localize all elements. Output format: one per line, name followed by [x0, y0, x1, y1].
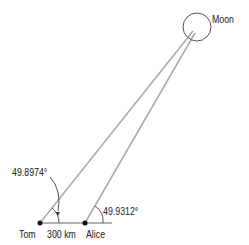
alice-label: Alice — [86, 230, 105, 240]
tom-sight-line — [40, 31, 193, 223]
alice-angle-label: 49.9312° — [103, 207, 138, 217]
baseline-distance-label: 300 km — [47, 230, 76, 240]
moon-circle — [183, 13, 211, 41]
tom-angle-label: 49.8974° — [12, 168, 47, 178]
tom-label: Tom — [19, 230, 36, 240]
alice-sight-line — [85, 33, 195, 223]
alice-angle-arc — [95, 206, 103, 223]
alice-point — [83, 221, 88, 226]
moon-label: Moon — [212, 15, 234, 25]
tom-point — [38, 221, 43, 226]
